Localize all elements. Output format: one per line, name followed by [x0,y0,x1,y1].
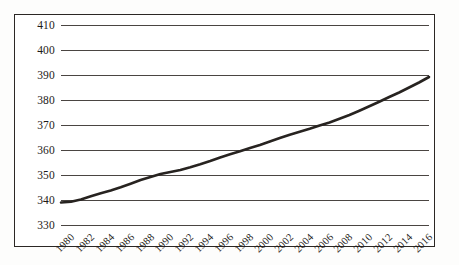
y-tick-label: 330 [37,219,55,231]
y-tick-label: 360 [37,144,55,156]
x-axis: 1980198219841986198819901992199419961998… [61,237,429,265]
y-tick-label: 350 [37,169,55,181]
y-tick-label: 410 [37,19,55,31]
y-axis: 410400390380370360350340330 [15,25,55,236]
y-tick-label: 390 [37,69,55,81]
x-tick-label: 1980 [53,231,76,254]
y-tick-label: 400 [37,44,55,56]
y-tick-label: 380 [37,94,55,106]
plot-area [61,25,429,236]
y-tick-label: 340 [37,194,55,206]
chart-figure: 410400390380370360350340330 198019821984… [0,0,459,265]
chart-plot-frame: 410400390380370360350340330 198019821984… [14,14,435,247]
y-tick-label: 370 [37,119,55,131]
series-layer [61,25,429,236]
line-series-path [61,77,429,203]
